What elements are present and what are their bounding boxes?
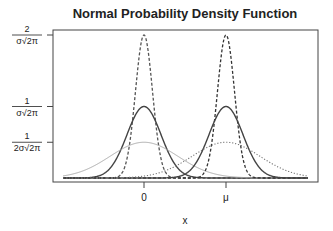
x-axis-label: x — [183, 215, 188, 226]
y-tick-denominator: σ√2π — [16, 108, 38, 118]
density-curves — [63, 35, 308, 178]
y-tick-numerator: 1 — [24, 96, 29, 106]
chart-title: Normal Probability Density Function — [73, 6, 298, 21]
density-curve-5 — [63, 142, 308, 178]
density-curve-2 — [63, 142, 308, 178]
density-curve-3 — [63, 35, 308, 178]
plot-frame — [53, 30, 318, 182]
x-tick-label: μ — [223, 192, 229, 203]
x-tick-label: 0 — [141, 192, 147, 203]
y-tick-numerator: 1 — [24, 131, 29, 141]
y-tick-denominator: 2σ√2π — [14, 143, 41, 153]
density-curve-0 — [63, 35, 308, 178]
y-tick-numerator: 2 — [24, 24, 29, 34]
normal-pdf-chart: Normal Probability Density Function 2σ√2… — [0, 0, 333, 231]
density-curve-4 — [63, 107, 308, 179]
y-axis-ticks: 2σ√2π1σ√2π12σ√2π — [12, 24, 53, 153]
density-curve-1 — [63, 107, 308, 179]
x-axis-ticks: 0μ — [141, 182, 229, 203]
y-tick-denominator: σ√2π — [16, 36, 38, 46]
